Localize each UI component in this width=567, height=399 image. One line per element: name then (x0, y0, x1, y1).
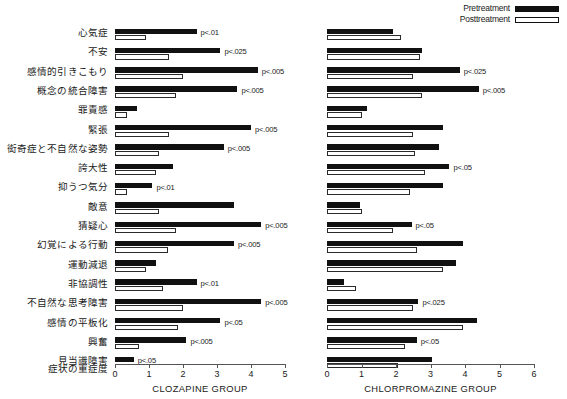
bar-posttreatment (115, 54, 169, 59)
p-value-annotation: p<.005 (228, 144, 250, 153)
x-axis-tick-label: 5 (282, 369, 287, 380)
chart-row: 興奮p<.005 (0, 335, 320, 354)
x-axis-tick-label: 1 (146, 369, 151, 380)
x-axis-tick-label: 4 (462, 369, 467, 380)
p-value-annotation: p<.05 (224, 318, 242, 327)
bar-group (115, 103, 320, 122)
bar-pretreatment (327, 202, 360, 207)
bar-posttreatment (327, 228, 393, 233)
bar-posttreatment (327, 74, 413, 79)
bar-pretreatment (115, 183, 152, 188)
bar-group: p<.01 (115, 26, 320, 45)
chart-row: p<.05 (320, 219, 567, 238)
p-value-annotation: p<.025 (464, 67, 486, 76)
chart-title: CLOZAPINE GROUP (115, 383, 285, 394)
chart-row: 感情的引きこもりp<.005 (0, 65, 320, 84)
bar-pretreatment (327, 86, 479, 91)
x-axis-tick (115, 364, 116, 368)
category-label: 興奮 (0, 335, 108, 348)
chart-row: 緊張p<.005 (0, 123, 320, 142)
bar-posttreatment (327, 267, 443, 272)
bar-pretreatment (115, 279, 197, 284)
category-label: 不自然な思考障害 (0, 296, 108, 309)
bar-posttreatment (115, 228, 176, 233)
bar-group: p<.01 (115, 277, 320, 296)
chart-row: 概念の統合障害p<.005 (0, 84, 320, 103)
chart-row (320, 123, 567, 142)
bar-pretreatment (327, 29, 393, 34)
category-label: 心気症 (0, 26, 108, 39)
bar-posttreatment (115, 112, 127, 117)
chart-row (320, 316, 567, 335)
bar-posttreatment (115, 286, 163, 291)
bar-posttreatment (327, 112, 362, 117)
bar-group (115, 258, 320, 277)
chart-row: 猜疑心p<.005 (0, 219, 320, 238)
category-label: 概念の統合障害 (0, 84, 108, 97)
bar-group (327, 26, 567, 45)
x-axis-tick (251, 364, 252, 368)
bar-group: p<.05 (327, 335, 567, 354)
bar-pretreatment (327, 337, 417, 342)
bar-posttreatment (327, 286, 356, 291)
bar-group: p<.005 (115, 335, 320, 354)
p-value-annotation: p<.005 (255, 125, 277, 134)
p-value-annotation: p<.005 (483, 86, 505, 95)
x-axis-line (115, 364, 285, 365)
category-label: 猜疑心 (0, 219, 108, 232)
bar-group: p<.005 (115, 65, 320, 84)
category-label: 抑うつ気分 (0, 180, 108, 193)
chart-row (320, 277, 567, 296)
category-label: 幻覚による行動 (0, 238, 108, 251)
chart-row (320, 238, 567, 257)
p-value-annotation: p<.005 (241, 86, 263, 95)
bar-group: p<.025 (327, 65, 567, 84)
chart-row: 不自然な思考障害p<.005 (0, 296, 320, 315)
chart-row (320, 142, 567, 161)
p-value-annotation: p<.005 (265, 298, 287, 307)
x-axis-tick (465, 364, 466, 368)
bar-group: p<.025 (115, 45, 320, 64)
bar-group (327, 258, 567, 277)
bar-pretreatment (327, 48, 422, 53)
chart-row: 罪責感 (0, 103, 320, 122)
bar-pretreatment (115, 202, 234, 207)
bar-pretreatment (327, 164, 449, 169)
bar-posttreatment (115, 189, 127, 194)
bar-pretreatment (327, 144, 439, 149)
bar-group: p<.05 (115, 316, 320, 335)
bar-posttreatment (327, 170, 425, 175)
bar-pretreatment (327, 260, 456, 265)
bar-pretreatment (327, 241, 463, 246)
bar-posttreatment (115, 35, 146, 40)
x-axis-tick-label: 2 (180, 369, 185, 380)
bar-group (327, 45, 567, 64)
bar-posttreatment (327, 247, 417, 252)
bar-group: p<.005 (327, 84, 567, 103)
chart-row (320, 180, 567, 199)
bar-posttreatment (115, 209, 159, 214)
p-value-annotation: p<.025 (224, 47, 246, 56)
bar-pretreatment (115, 337, 186, 342)
bar-group: p<.025 (327, 296, 567, 315)
bar-pretreatment (327, 106, 367, 111)
bar-group (327, 180, 567, 199)
bar-group (115, 161, 320, 180)
bar-pretreatment (115, 86, 237, 91)
chart-panel-chlorpromazine: p<.025p<.005p<.05p<.05p<.025p<.050123456… (320, 0, 567, 399)
bar-group: p<.005 (115, 219, 320, 238)
bar-pretreatment (327, 67, 460, 72)
bar-pretreatment (327, 357, 432, 362)
bar-group (327, 200, 567, 219)
bar-group: p<.005 (115, 296, 320, 315)
bar-pretreatment (115, 299, 261, 304)
category-label: 感情の平板化 (0, 316, 108, 329)
chart-row: 誇大性 (0, 161, 320, 180)
bar-group: p<.01 (115, 180, 320, 199)
chart-row: p<.025 (320, 296, 567, 315)
chart-row (320, 258, 567, 277)
bar-posttreatment (327, 305, 413, 310)
bar-posttreatment (115, 132, 169, 137)
bar-pretreatment (115, 222, 261, 227)
x-axis-tick-label: 6 (531, 369, 536, 380)
